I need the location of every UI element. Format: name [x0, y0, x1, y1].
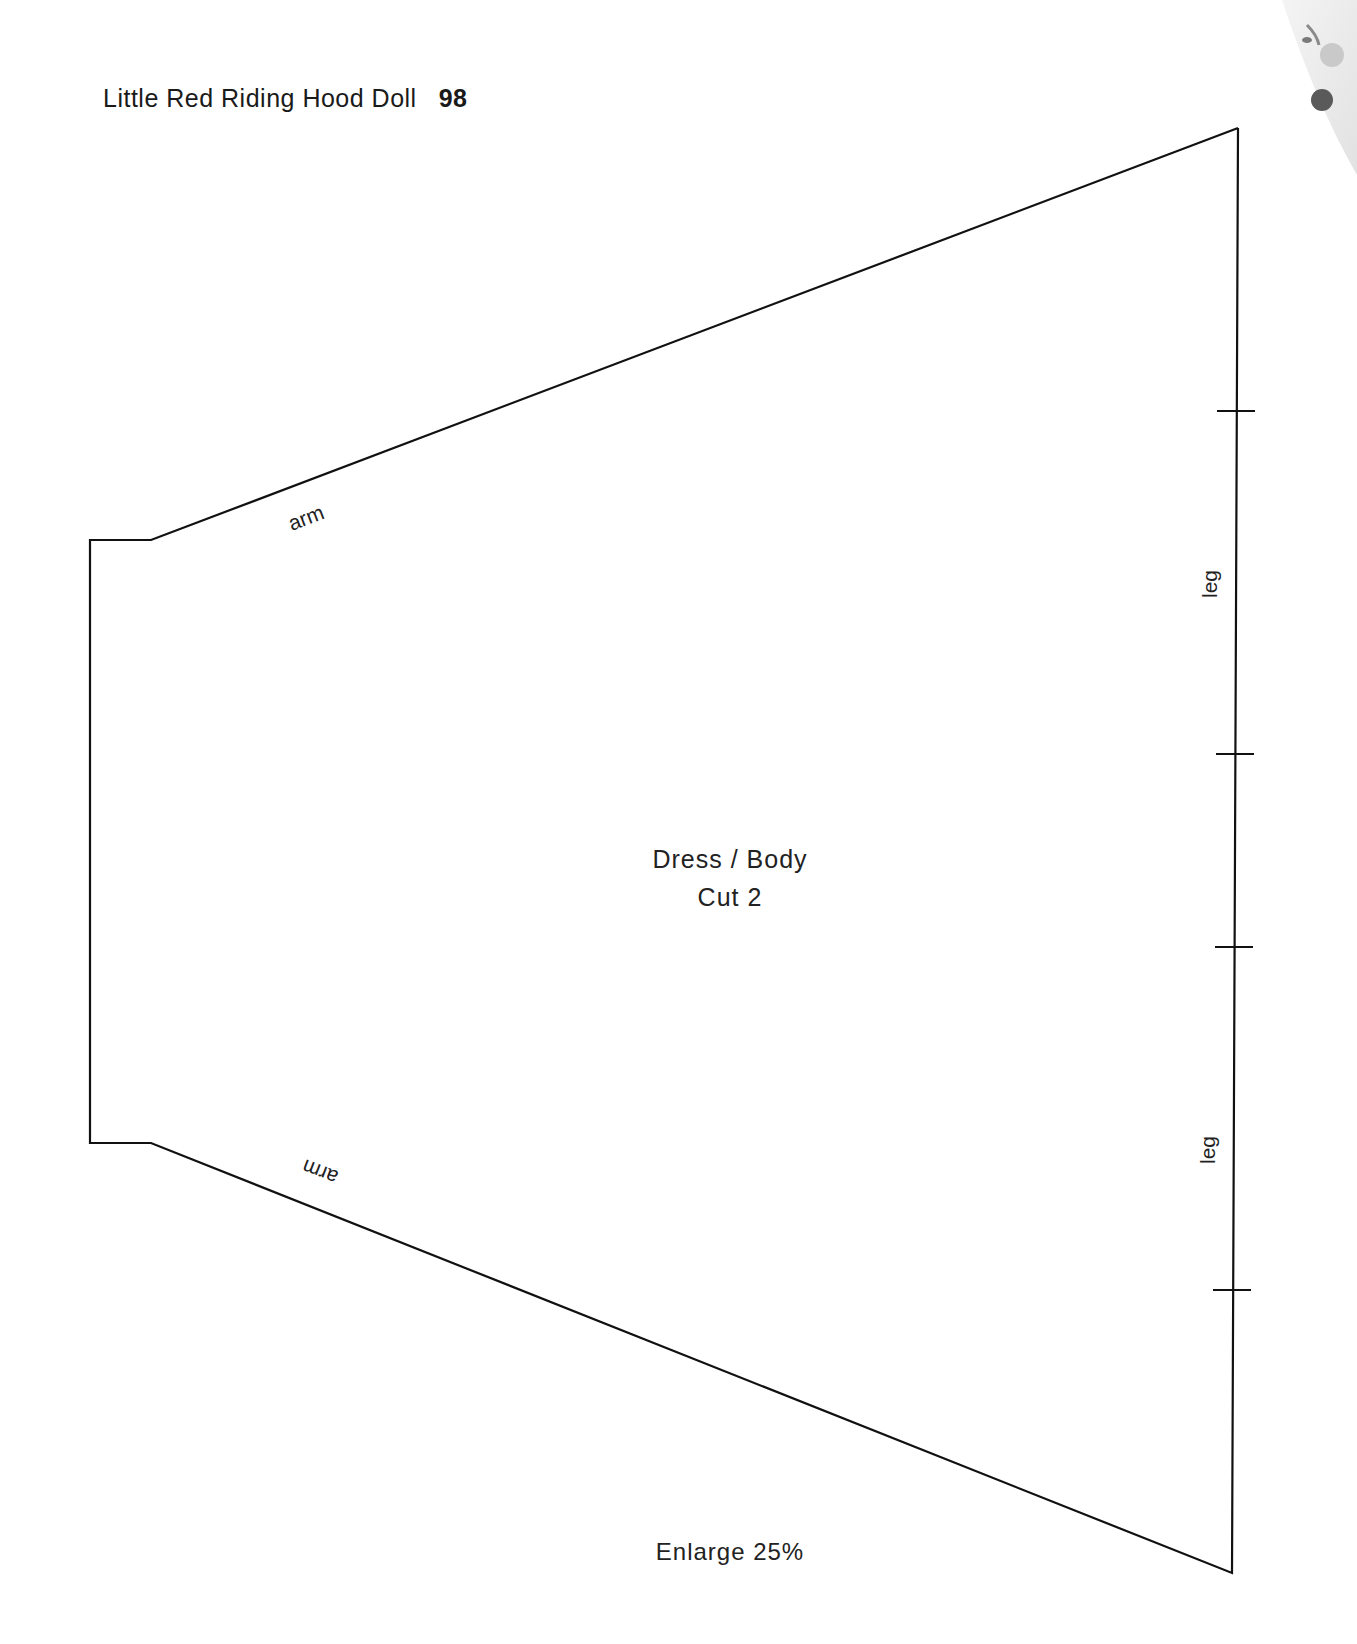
cut-instruction: Cut 2 — [560, 878, 900, 916]
dress-body-pattern-outline — [0, 0, 1357, 1644]
enlarge-instruction: Enlarge 25% — [560, 1538, 900, 1566]
pattern-piece-label: Dress / Body Cut 2 — [560, 840, 900, 916]
leg-edge-label-lower: leg — [1196, 1136, 1220, 1164]
piece-name: Dress / Body — [560, 840, 900, 878]
leg-edge-label-upper: leg — [1198, 570, 1222, 598]
